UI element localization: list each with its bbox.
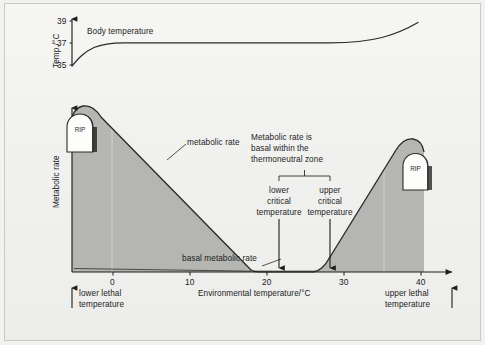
thermoneutral-annotation-line-2: basal within the	[251, 144, 309, 155]
x-tick-label-0: 0	[110, 277, 115, 288]
top-chart-tick-label-39: 39	[57, 16, 66, 27]
metabolic-rate-label: metabolic rate	[187, 138, 240, 149]
bottom-chart-x-axis-label: Environmental temperature/°C	[198, 289, 311, 300]
upper-lethal-temperature-line-2: temperature	[385, 300, 430, 311]
x-tick-label-30: 30	[339, 277, 348, 288]
upper-critical-temperature-line-2: critical	[305, 197, 355, 208]
thermoneutral-annotation-line-3: thermoneutral zone	[251, 155, 323, 166]
metabolic-rate-leader-line	[167, 144, 186, 160]
figure-container: Temp./°C 39 37 35 Body temperature Metab…	[0, 0, 485, 345]
lower-lethal-temperature-line-1: lower lethal	[79, 289, 121, 300]
basal-metabolic-rate-label: basal metabolic rate	[182, 254, 257, 265]
bottom-chart-y-axis-label: Metabolic rate	[52, 155, 63, 208]
tombstone-left-shape	[67, 114, 93, 152]
tombstone-right-label: RIP	[403, 165, 428, 172]
body-temperature-label: Body temperature	[87, 27, 153, 38]
top-chart-tick-label-35: 35	[57, 60, 66, 71]
upper-critical-temperature-line-3: temperature	[300, 208, 360, 219]
lower-lethal-temperature-line-2: temperature	[79, 300, 124, 311]
basal-metabolic-rate-leader-line	[262, 259, 281, 266]
upper-lethal-temperature-line-1: upper lethal	[385, 289, 429, 300]
thermoneutral-annotation-line-1: Metabolic rate is	[251, 133, 312, 144]
x-tick-label-40: 40	[416, 277, 425, 288]
lower-critical-temperature-line-1: lower	[254, 186, 304, 197]
x-tick-label-20: 20	[262, 277, 271, 288]
x-tick-label-10: 10	[185, 277, 194, 288]
lower-critical-temperature-line-2: critical	[254, 197, 304, 208]
tombstone-left-label: RIP	[67, 126, 93, 133]
critical-temperature-bracket	[279, 176, 330, 181]
top-chart-tick-label-37: 37	[57, 38, 66, 49]
upper-critical-temperature-line-1: upper	[305, 186, 355, 197]
